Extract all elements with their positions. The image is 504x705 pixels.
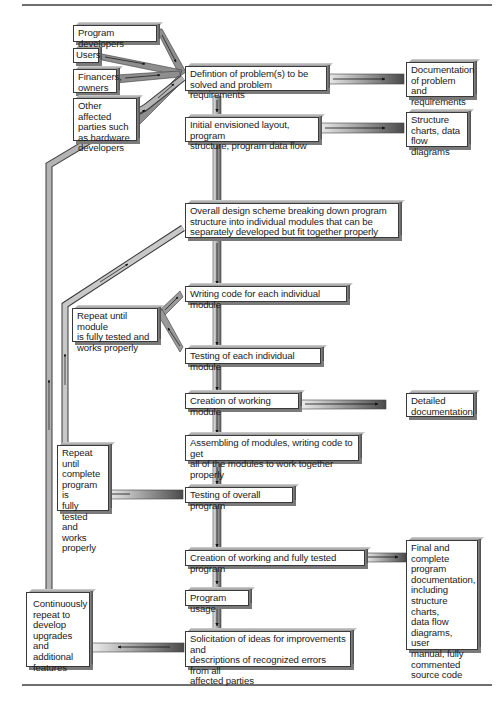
step-solicitation: Solicitation of ideas for improvements a… xyxy=(185,631,351,667)
loop-continuous: Continuously repeat to develop upgrades … xyxy=(26,592,90,667)
step-overall-design: Overall design scheme breaking down prog… xyxy=(185,203,399,238)
output-label: Documentation of problem and requirement… xyxy=(411,64,474,107)
output-detailed-doc: Detailed documentation xyxy=(406,393,474,417)
stakeholder-financers-owners: Financers, owners xyxy=(73,69,117,93)
step-assembling: Assembling of modules, writing code to g… xyxy=(185,435,359,461)
step-creation-module: Creation of working module xyxy=(185,393,299,409)
stakeholder-label: Financers, owners xyxy=(78,71,122,93)
stakeholder-label: Users xyxy=(76,49,101,60)
step-writing-code: Writing code for each individual module xyxy=(185,286,347,302)
stakeholder-users: Users xyxy=(73,48,99,63)
loop-repeat-module: Repeat until module is fully tested and … xyxy=(72,308,158,342)
output-structure-charts: Structure charts, data flow diagrams xyxy=(406,112,468,147)
output-final-doc: Final and complete program documentation… xyxy=(406,540,478,650)
stakeholder-label: Other affected parties such as hardware … xyxy=(78,100,130,153)
output-doc-problem: Documentation of problem and requirement… xyxy=(406,62,474,97)
output-label: Detailed documentation xyxy=(411,395,473,417)
step-label: Overall design scheme breaking down prog… xyxy=(190,205,387,237)
stakeholder-other-affected-parties: Other affected parties such as hardware … xyxy=(73,98,137,141)
loop-repeat-program: Repeat until complete program is fully t… xyxy=(57,445,109,511)
step-initial-layout: Initial envisioned layout, program struc… xyxy=(185,117,319,142)
step-testing-module: Testing of each individual module xyxy=(185,348,321,364)
step-label: Initial envisioned layout, program struc… xyxy=(190,119,307,151)
loop-label: Continuously repeat to develop upgrades … xyxy=(33,598,87,673)
step-creation-program: Creation of working and fully tested pro… xyxy=(185,550,365,566)
step-definition: Defintion of problem(s) to be solved and… xyxy=(185,66,327,91)
step-program-usage: Program usage xyxy=(185,590,249,606)
step-testing-overall: Testing of overall program xyxy=(185,487,293,503)
stakeholder-label: Program developers xyxy=(78,27,124,49)
stakeholder-program-developers: Program developers xyxy=(73,25,157,42)
